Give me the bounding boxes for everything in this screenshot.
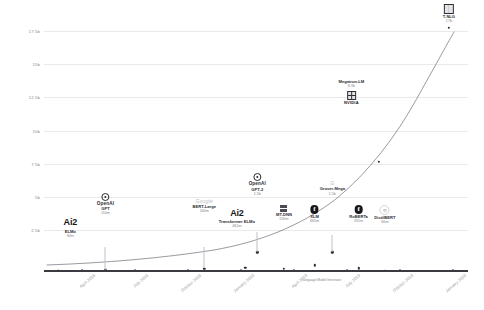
- annotation-grover-mega: G Grover-Mega 1.5b: [320, 180, 345, 196]
- xlm-params-label: 665m: [310, 219, 319, 224]
- annotation-distilbert: ☺ DistilBERT 66m: [374, 205, 395, 225]
- ytick-label-12500: 12.5b: [29, 95, 40, 100]
- xtick-mark-0: [82, 269, 83, 272]
- annotation-gpt-2: OpenAI GPT-2 1.5b: [249, 173, 266, 196]
- annotation-t-nlg: T-NLG 17b: [443, 4, 455, 23]
- distilbert-params-label: 66m: [374, 220, 395, 225]
- facebook-logo-2: f: [354, 205, 363, 214]
- openai-logo: [101, 193, 109, 201]
- xtick-label-5: July 2019: [344, 273, 361, 288]
- mt-dnn-params-label: 330m: [276, 217, 292, 222]
- ytick-label-5000: 5b: [35, 194, 40, 199]
- xtick-label-0: April 2018: [78, 273, 96, 289]
- grover-mega-params-label: 1.5b: [320, 192, 345, 197]
- xtick-mark-2: [188, 269, 189, 272]
- xtick-label-6: October 2019: [391, 273, 414, 293]
- bert-large-params-label: 340m: [193, 209, 216, 214]
- facebook-logo-wrap-2: f: [349, 205, 368, 214]
- openai-logo-2: [253, 173, 261, 181]
- microsoft-logo: [280, 205, 287, 212]
- ytick-label-7500: 7.5b: [31, 161, 40, 166]
- annotation-language-model-generator: Language Model Generator: [302, 279, 341, 283]
- x-axis-line: [44, 270, 468, 272]
- microsoft-logo-wrap: [276, 205, 292, 212]
- openai-logo-wrap: [97, 193, 114, 201]
- facebook-logo-wrap: f: [310, 205, 319, 214]
- ytick-label-15000: 15b: [33, 62, 40, 67]
- ai2-logo-2: Ai2: [219, 208, 255, 219]
- xtick-mark-5: [347, 269, 348, 272]
- xtick-label-2: October 2018: [179, 273, 202, 293]
- ai2-logo: Ai2: [64, 217, 77, 228]
- gpt-params-label: 110m: [97, 211, 114, 216]
- nvidia-logo-wrap: [339, 91, 365, 100]
- xtick-mark-3: [241, 269, 242, 272]
- parameter-count-chart: 17.5b 15b 12.5b 10b 7.5b 5b 2.5b Ai2 ELM…: [0, 0, 484, 310]
- xtick-mark-4: [294, 269, 295, 272]
- annotation-bert-large: Google BERT-Large 340m: [193, 198, 216, 214]
- gpt-2-org-label: OpenAI: [249, 181, 266, 187]
- t-nlg-model-label: T-NLG: [443, 14, 455, 19]
- openai-logo-wrap-2: [249, 173, 266, 181]
- annotation-elmo: Ai2 ELMo 94m: [64, 217, 77, 238]
- xtick-label-7: January 2020: [444, 273, 467, 293]
- leader-bert-large: [204, 247, 205, 268]
- xtick-label-1: July 2018: [132, 273, 149, 288]
- megatron-lm-org-label: NVIDIA: [339, 100, 365, 105]
- leader-gpt-2: [257, 232, 258, 252]
- ytick-label-10000: 10b: [33, 128, 40, 133]
- xtick-mark-1: [135, 269, 136, 272]
- distilbert-logo: ☺: [380, 205, 390, 215]
- leader-grover-mega: [332, 235, 333, 252]
- roberta-params-label: 355m: [349, 219, 368, 224]
- gpt-2-params-label: 1.5b: [249, 192, 266, 197]
- facebook-logo: f: [310, 205, 319, 214]
- ytick-label-2500: 2.5b: [31, 227, 40, 232]
- annotation-transformer-elmo: Ai2 Transformer ELMo 465m: [219, 208, 255, 229]
- annotation-roberta: f RoBERTa 355m: [349, 205, 368, 223]
- language-model-generator-label: Language Model Generator: [302, 279, 341, 283]
- microsoft-logo-2: [444, 4, 454, 14]
- annotation-xlm: f XLM 665m: [310, 205, 319, 223]
- elmo-params-label: 94m: [64, 234, 77, 239]
- annotation-megatron-lm: Megatron-LM 8.3b NVIDIA: [339, 79, 365, 105]
- gpt-org-label: OpenAI: [97, 201, 114, 207]
- xtick-mark-7: [453, 269, 454, 272]
- xtick-label-3: January 2019: [232, 273, 255, 293]
- leader-gpt: [105, 247, 106, 269]
- roberta-model-label: RoBERTa: [349, 214, 368, 219]
- xlm-model-label: XLM: [310, 214, 319, 219]
- annotation-gpt: OpenAI GPT 110m: [97, 193, 114, 216]
- annotation-mt-dnn: MT-DNN 330m: [276, 205, 292, 222]
- transformer-elmo-params-label: 465m: [219, 224, 255, 229]
- t-nlg-params-label: 17b: [443, 19, 455, 24]
- microsoft-logo-wrap-2: [443, 4, 455, 14]
- plot-area: 17.5b 15b 12.5b 10b 7.5b 5b 2.5b Ai2 ELM…: [44, 24, 468, 272]
- nvidia-logo: [347, 91, 356, 100]
- xtick-mark-6: [400, 269, 401, 272]
- ytick-label-17500: 17.5b: [29, 29, 40, 34]
